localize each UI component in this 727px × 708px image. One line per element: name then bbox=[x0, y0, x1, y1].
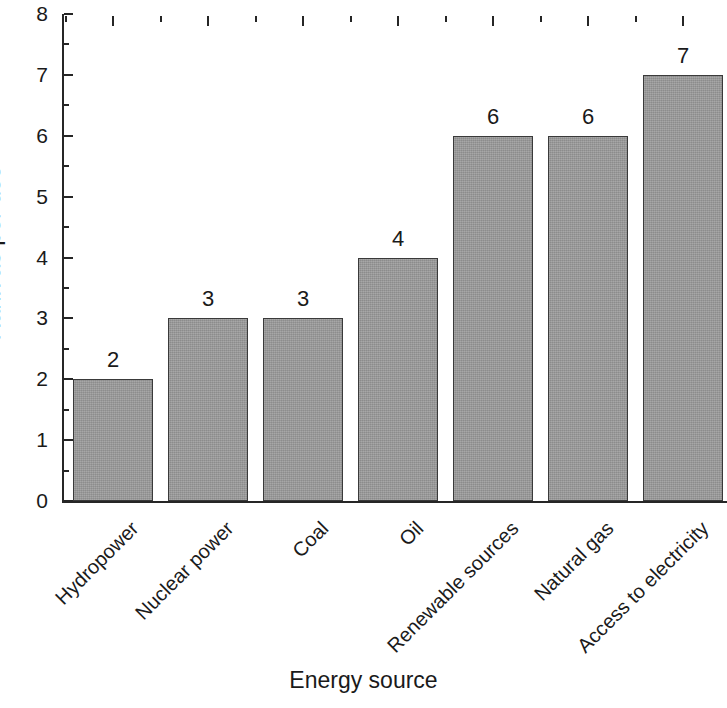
bar-value-label: 2 bbox=[73, 349, 153, 371]
y-tick-minor bbox=[64, 104, 69, 106]
y-tick-minor bbox=[64, 470, 69, 472]
bar bbox=[643, 75, 723, 501]
y-tick-label: 1 bbox=[0, 429, 48, 450]
y-tick-major bbox=[64, 196, 73, 198]
x-category-label: Nuclear power bbox=[131, 517, 238, 624]
y-tick-label: 4 bbox=[0, 247, 48, 268]
y-tick-major bbox=[64, 317, 73, 319]
x-tick-minor bbox=[65, 16, 67, 22]
y-tick-major bbox=[64, 500, 73, 502]
x-axis-line bbox=[62, 501, 727, 503]
bar-value-label: 7 bbox=[643, 45, 723, 67]
x-tick-major bbox=[682, 16, 684, 26]
y-tick-minor bbox=[64, 165, 69, 167]
y-tick-label: 5 bbox=[0, 186, 48, 207]
x-tick-major bbox=[397, 16, 399, 26]
y-tick-label: 2 bbox=[0, 368, 48, 389]
y-tick-major bbox=[64, 439, 73, 441]
y-axis-title: Rank as per use bbox=[0, 103, 5, 403]
y-tick-major bbox=[64, 13, 73, 15]
y-tick-minor bbox=[64, 287, 69, 289]
y-tick-label: 8 bbox=[0, 3, 48, 24]
y-tick-label: 0 bbox=[0, 490, 48, 511]
y-tick-minor bbox=[64, 43, 69, 45]
bar bbox=[263, 318, 343, 501]
x-tick-major bbox=[207, 16, 209, 26]
y-tick-minor bbox=[64, 409, 69, 411]
x-tick-major bbox=[492, 16, 494, 26]
x-tick-minor bbox=[540, 16, 542, 22]
x-tick-major bbox=[587, 16, 589, 26]
bar bbox=[168, 318, 248, 501]
y-tick-label: 7 bbox=[0, 64, 48, 85]
x-category-label: Oil bbox=[395, 517, 428, 550]
x-tick-minor bbox=[635, 16, 637, 22]
x-tick-minor bbox=[160, 16, 162, 22]
y-tick-label: 3 bbox=[0, 307, 48, 328]
x-tick-minor bbox=[255, 16, 257, 22]
y-tick-minor bbox=[64, 348, 69, 350]
chart-figure: 2334667 012345678 HydropowerNuclear powe… bbox=[0, 0, 727, 708]
bar bbox=[358, 258, 438, 502]
y-tick-major bbox=[64, 257, 73, 259]
y-tick-major bbox=[64, 135, 73, 137]
bar-value-label: 3 bbox=[168, 288, 248, 310]
bar bbox=[73, 379, 153, 501]
x-tick-major bbox=[302, 16, 304, 26]
y-tick-minor bbox=[64, 226, 69, 228]
x-axis-title: Energy source bbox=[0, 668, 727, 692]
bar-value-label: 4 bbox=[358, 228, 438, 250]
bar-value-label: 6 bbox=[548, 106, 628, 128]
x-category-label: Coal bbox=[288, 517, 333, 562]
x-tick-major bbox=[112, 16, 114, 26]
y-tick-major bbox=[64, 378, 73, 380]
bar bbox=[548, 136, 628, 501]
bar-value-label: 6 bbox=[453, 106, 533, 128]
y-tick-label: 6 bbox=[0, 125, 48, 146]
bar-value-label: 3 bbox=[263, 288, 343, 310]
plot-area: 2334667 bbox=[62, 14, 727, 501]
x-tick-minor bbox=[445, 16, 447, 22]
y-tick-major bbox=[64, 74, 73, 76]
x-category-label: Natural gas bbox=[530, 517, 618, 605]
bar bbox=[453, 136, 533, 501]
x-tick-minor bbox=[350, 16, 352, 22]
x-category-label: Hydropower bbox=[51, 517, 143, 609]
